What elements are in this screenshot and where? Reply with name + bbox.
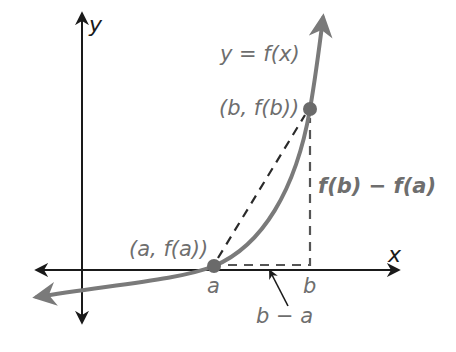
run-rise-legs (228, 118, 310, 265)
point-b (303, 102, 317, 116)
secant-construction (218, 115, 310, 265)
x-axis-label: x (387, 242, 402, 267)
secant-diagram: y x y = f(x) (b, f(b)) (a, f(a)) f(b) − … (0, 0, 456, 352)
run-label: b − a (256, 304, 313, 328)
curve-label: y = f(x) (219, 42, 300, 66)
b-minus-a-pointer (270, 271, 288, 306)
point-a (207, 259, 221, 273)
b-tick-label: b (303, 274, 316, 298)
point-a-label: (a, f(a)) (129, 237, 208, 261)
y-axis-label: y (88, 12, 103, 37)
point-b-label: (b, f(b)) (219, 96, 299, 120)
rise-label: f(b) − f(a) (318, 174, 436, 198)
a-tick-label: a (207, 274, 220, 298)
secant-line (218, 115, 305, 258)
